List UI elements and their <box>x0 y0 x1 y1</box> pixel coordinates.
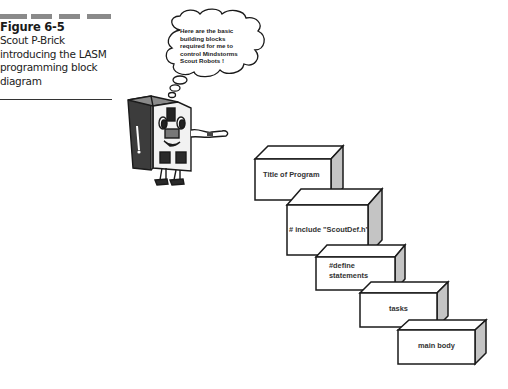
scout-p-brick-character-icon <box>128 96 228 185</box>
block-label-tasks: tasks <box>389 304 408 314</box>
speech-bubble-text: Here are the basic building blocks requi… <box>180 27 260 65</box>
block-label-title: Title of Program <box>263 170 320 180</box>
speech-line: control Mindstorms <box>180 50 260 58</box>
speech-line: Here are the basic <box>180 27 260 35</box>
block-label-line: statements <box>329 271 368 281</box>
block-label-line: #define <box>329 261 368 271</box>
speech-line: required for me to <box>180 42 260 50</box>
speech-line: building blocks <box>180 35 260 43</box>
block-label-main-body: main body <box>418 341 455 351</box>
speech-line: Scout Robots ! <box>180 57 260 65</box>
block-label-include: # include "ScoutDef.h" <box>289 225 369 235</box>
block-label-define: #define statements <box>329 261 368 280</box>
